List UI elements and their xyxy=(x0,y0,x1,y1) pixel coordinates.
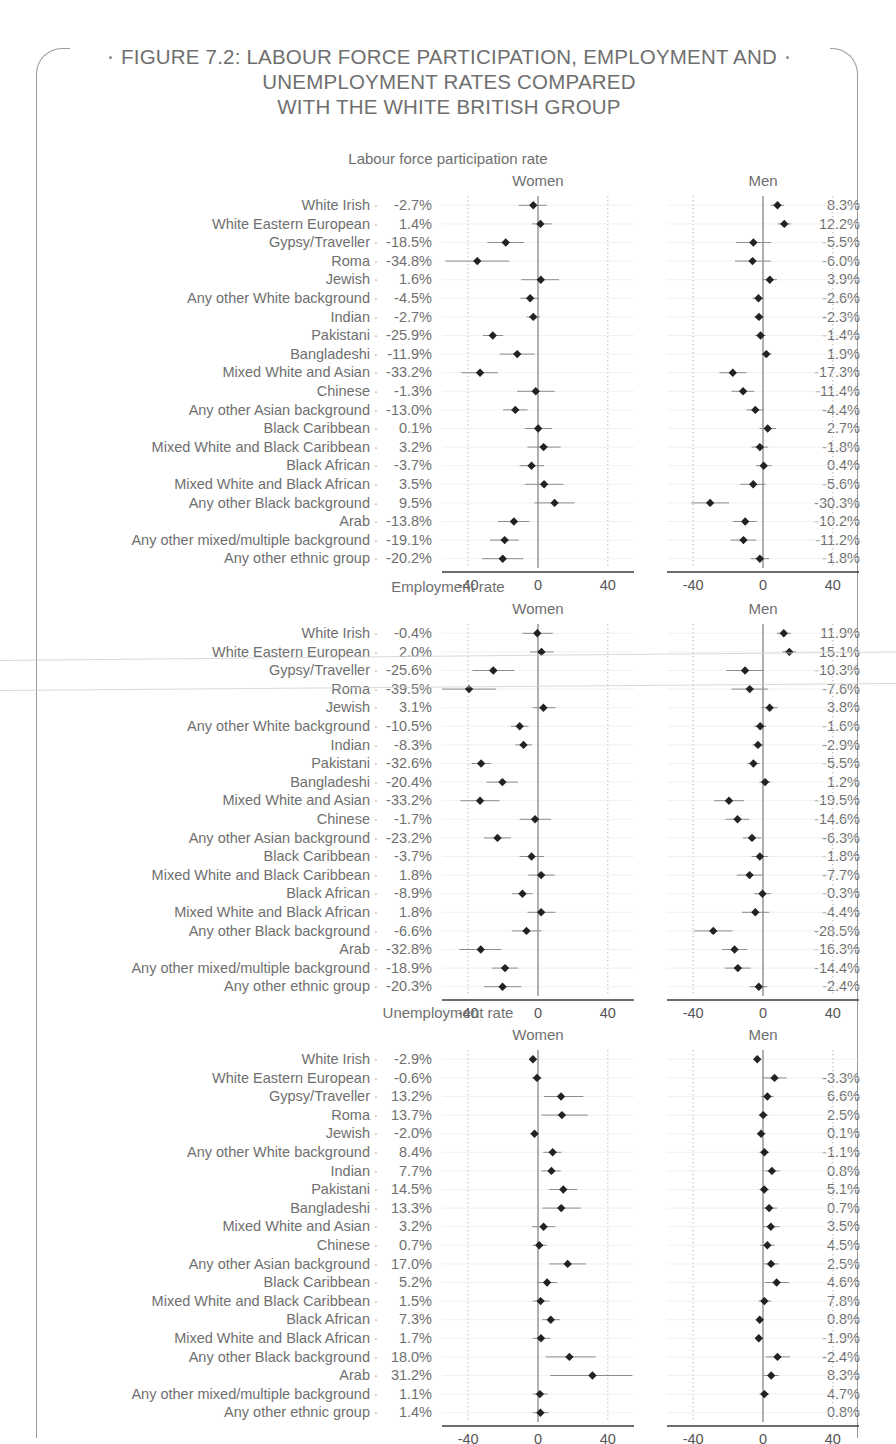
value-label: -25.9% xyxy=(374,326,432,345)
group-label: Indian xyxy=(30,1162,370,1181)
value-label: 0.7% xyxy=(374,1236,432,1255)
value-label: 31.2% xyxy=(374,1366,432,1385)
value-label: -13.8% xyxy=(374,512,432,531)
title-bullet-left-icon xyxy=(109,56,112,59)
value-label: 5.2% xyxy=(374,1273,432,1292)
group-label: Arab xyxy=(30,1366,370,1385)
svg-text:40: 40 xyxy=(825,1431,841,1444)
group-label: Any other ethnic group xyxy=(30,977,370,996)
panel-title: Unemployment rate xyxy=(0,1004,896,1021)
value-label: 1.6% xyxy=(374,270,432,289)
value-label: 3.5% xyxy=(374,475,432,494)
value-label: -1.7% xyxy=(374,810,432,829)
value-label: 1.1% xyxy=(374,1385,432,1404)
group-label: Any other Asian background xyxy=(30,829,370,848)
group-label: Jewish xyxy=(30,698,370,717)
subpanel-label-men: Men xyxy=(667,1026,859,1043)
value-label: 3.1% xyxy=(374,698,432,717)
value-label: 1.7% xyxy=(374,1329,432,1348)
group-label: Any other Black background xyxy=(30,1348,370,1367)
group-label: Any other Asian background xyxy=(30,1255,370,1274)
group-label: Chinese xyxy=(30,810,370,829)
value-label: 3.2% xyxy=(374,438,432,457)
value-label: -2.0% xyxy=(374,1124,432,1143)
group-label: Any other White background xyxy=(30,1143,370,1162)
group-label: White Irish xyxy=(30,624,370,643)
svg-text:-40: -40 xyxy=(458,1431,479,1444)
value-label: -0.6% xyxy=(374,1069,432,1088)
group-label: Mixed White and Black African xyxy=(30,475,370,494)
group-label: Chinese xyxy=(30,382,370,401)
value-label: 8.4% xyxy=(374,1143,432,1162)
group-label: Black Caribbean xyxy=(30,1273,370,1292)
group-label: Black Caribbean xyxy=(30,419,370,438)
value-label: -2.7% xyxy=(374,196,432,215)
group-label: White Eastern European xyxy=(30,1069,370,1088)
group-label: Any other Black background xyxy=(30,494,370,513)
value-label: -3.7% xyxy=(374,456,432,475)
figure-title-line-2: UNEMPLOYMENT RATES COMPARED xyxy=(262,70,635,93)
value-label: 9.5% xyxy=(374,494,432,513)
group-label: Indian xyxy=(30,308,370,327)
group-label: Roma xyxy=(30,1106,370,1125)
group-label: Any other mixed/multiple background xyxy=(30,1385,370,1404)
group-label: Any other White background xyxy=(30,289,370,308)
group-label: Roma xyxy=(30,252,370,271)
panel-title: Employment rate xyxy=(0,578,896,595)
svg-text:0: 0 xyxy=(759,1431,767,1444)
group-label: Pakistani xyxy=(30,326,370,345)
figure-title: FIGURE 7.2: LABOUR FORCE PARTICIPATION, … xyxy=(58,44,840,119)
group-label: Any other White background xyxy=(30,717,370,736)
figure-title-line-1: FIGURE 7.2: LABOUR FORCE PARTICIPATION, … xyxy=(121,45,777,68)
group-label-column: White IrishWhite Eastern EuropeanGypsy/T… xyxy=(30,196,370,568)
value-label: -34.8% xyxy=(374,252,432,271)
group-label: Any other mixed/multiple background xyxy=(30,959,370,978)
value-label: 1.4% xyxy=(374,1403,432,1422)
forest-plot-men: -40040 xyxy=(667,1050,859,1444)
group-label: Pakistani xyxy=(30,1180,370,1199)
value-label: -33.2% xyxy=(374,791,432,810)
value-label: 13.3% xyxy=(374,1199,432,1218)
subpanel-label-women: Women xyxy=(442,172,634,189)
group-label: Mixed White and Black African xyxy=(30,903,370,922)
svg-text:0: 0 xyxy=(534,1431,542,1444)
forest-plot-men: -40040 xyxy=(667,196,859,602)
group-label: Any other Asian background xyxy=(30,401,370,420)
subpanel-label-women: Women xyxy=(442,1026,634,1043)
group-label: Bangladeshi xyxy=(30,773,370,792)
group-label: Mixed White and Black Caribbean xyxy=(30,438,370,457)
value-label: 3.2% xyxy=(374,1217,432,1236)
svg-text:40: 40 xyxy=(600,1431,616,1444)
subpanel-label-men: Men xyxy=(667,172,859,189)
svg-text:-40: -40 xyxy=(683,1431,704,1444)
subpanel-label-women: Women xyxy=(442,600,634,617)
group-label: Black African xyxy=(30,1310,370,1329)
value-label: -13.0% xyxy=(374,401,432,420)
value-label: 0.1% xyxy=(374,419,432,438)
group-label: Bangladeshi xyxy=(30,345,370,364)
group-label: Arab xyxy=(30,940,370,959)
value-label: 1.8% xyxy=(374,903,432,922)
group-label: Mixed White and Black Caribbean xyxy=(30,1292,370,1311)
value-label: -25.6% xyxy=(374,661,432,680)
group-label: Chinese xyxy=(30,1236,370,1255)
value-label: -18.5% xyxy=(374,233,432,252)
group-label-column: White IrishWhite Eastern EuropeanGypsy/T… xyxy=(30,1050,370,1422)
value-label: -39.5% xyxy=(374,680,432,699)
title-bullet-right-icon xyxy=(786,56,789,59)
group-label: White Irish xyxy=(30,196,370,215)
value-label: -18.9% xyxy=(374,959,432,978)
value-label: -20.2% xyxy=(374,549,432,568)
group-label: Any other ethnic group xyxy=(30,1403,370,1422)
group-label: Pakistani xyxy=(30,754,370,773)
value-label: -20.4% xyxy=(374,773,432,792)
women-value-column: -2.7%1.4%-18.5%-34.8%1.6%-4.5%-2.7%-25.9… xyxy=(374,196,432,568)
group-label: Black Caribbean xyxy=(30,847,370,866)
value-label: 17.0% xyxy=(374,1255,432,1274)
value-label: -8.3% xyxy=(374,736,432,755)
panel-title: Labour force participation rate xyxy=(0,150,896,167)
group-label: Gypsy/Traveller xyxy=(30,233,370,252)
value-label: -6.6% xyxy=(374,922,432,941)
value-label: 18.0% xyxy=(374,1348,432,1367)
value-label: -1.3% xyxy=(374,382,432,401)
